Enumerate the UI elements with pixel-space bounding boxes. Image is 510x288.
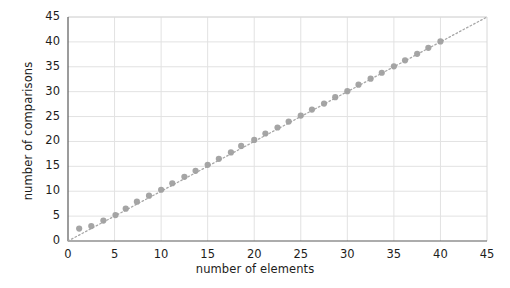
y-tick-25: 25: [26, 109, 60, 123]
data-points: [76, 38, 443, 231]
plot-canvas: [0, 0, 510, 288]
x-tick-5: 5: [98, 247, 132, 261]
x-tick-35: 35: [377, 247, 411, 261]
y-tick-30: 30: [26, 84, 60, 98]
y-tick-40: 40: [26, 34, 60, 48]
x-tick-10: 10: [144, 247, 178, 261]
x-axis-title: number of elements: [0, 262, 510, 276]
y-tick-0: 0: [26, 233, 60, 247]
y-tick-20: 20: [26, 133, 60, 147]
x-tick-40: 40: [423, 247, 457, 261]
y-tick-45: 45: [26, 9, 60, 23]
y-tick-35: 35: [26, 59, 60, 73]
y-tick-5: 5: [26, 208, 60, 222]
x-tick-15: 15: [191, 247, 225, 261]
x-tick-0: 0: [51, 247, 85, 261]
x-tick-45: 45: [470, 247, 504, 261]
chart-figure: number of comparisons number of elements…: [0, 0, 510, 288]
x-tick-25: 25: [284, 247, 318, 261]
y-tick-15: 15: [26, 158, 60, 172]
x-tick-30: 30: [330, 247, 364, 261]
x-tick-20: 20: [237, 247, 271, 261]
y-tick-10: 10: [26, 183, 60, 197]
